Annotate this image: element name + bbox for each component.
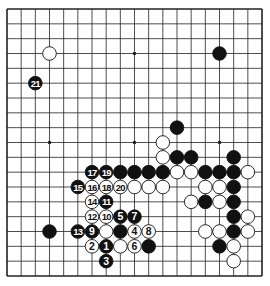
white-stone-icon — [156, 180, 170, 194]
star-point-icon — [133, 52, 137, 56]
black-stone-icon — [227, 210, 241, 224]
move-4: 4 — [128, 225, 142, 239]
black-stone-icon — [142, 240, 156, 254]
black-stone-icon — [227, 225, 241, 239]
move-14: 14 — [85, 195, 99, 209]
black-stone-icon — [170, 151, 184, 165]
move-number-label: 10 — [102, 211, 111, 222]
star-point-icon — [133, 141, 137, 145]
white-stone-icon — [213, 180, 227, 194]
white-stone-icon — [156, 151, 170, 165]
white-stone-icon — [114, 240, 128, 254]
move-9: 9 — [85, 225, 99, 239]
white-stone — [128, 180, 142, 194]
white-stone — [213, 225, 227, 239]
move-number-label: 1 — [103, 240, 109, 252]
move-11: 11 — [99, 195, 113, 209]
white-stone-icon — [170, 165, 184, 179]
black-stone-icon — [114, 225, 128, 239]
move-number-label: 6 — [132, 240, 138, 252]
black-stone-icon — [199, 165, 213, 179]
white-stone-icon — [213, 195, 227, 209]
white-stone-icon — [213, 225, 227, 239]
white-stone — [241, 165, 255, 179]
move-number-label: 9 — [89, 225, 95, 237]
move-6: 6 — [128, 240, 142, 254]
white-stone — [213, 195, 227, 209]
black-stone-icon — [142, 165, 156, 179]
black-stone — [156, 165, 170, 179]
move-20: 20 — [114, 180, 128, 194]
white-stone-icon — [43, 47, 57, 61]
black-stone — [114, 165, 128, 179]
white-stone-icon — [227, 254, 241, 268]
move-number-label: 15 — [73, 182, 83, 193]
white-stone — [156, 180, 170, 194]
black-stone — [213, 240, 227, 254]
black-stone-icon — [227, 151, 241, 165]
white-stone — [213, 180, 227, 194]
move-7: 7 — [128, 210, 142, 224]
black-stone — [227, 151, 241, 165]
white-stone — [241, 225, 255, 239]
black-stone — [227, 180, 241, 194]
white-stone-icon — [241, 165, 255, 179]
white-stone — [170, 165, 184, 179]
black-stone-icon — [227, 195, 241, 209]
white-stone-icon — [227, 240, 241, 254]
black-stone-icon — [213, 240, 227, 254]
white-stone — [184, 165, 198, 179]
white-stone-icon — [142, 180, 156, 194]
move-19: 19 — [99, 165, 113, 179]
white-stone — [156, 151, 170, 165]
white-stone — [241, 210, 255, 224]
move-3: 3 — [99, 254, 113, 268]
black-stone-icon — [128, 165, 142, 179]
white-stone-icon — [241, 210, 255, 224]
black-stone-icon — [43, 225, 57, 239]
move-1: 1 — [99, 240, 113, 254]
move-number-label: 18 — [102, 182, 111, 193]
white-stone — [142, 180, 156, 194]
move-18: 18 — [99, 180, 113, 194]
black-stone — [142, 240, 156, 254]
white-stone — [227, 254, 241, 268]
black-stone — [199, 165, 213, 179]
move-21: 21 — [29, 76, 43, 90]
white-stone — [156, 136, 170, 150]
black-stone — [227, 165, 241, 179]
move-12: 12 — [85, 210, 99, 224]
move-number-label: 19 — [102, 167, 111, 178]
move-17: 17 — [85, 165, 99, 179]
move-number-label: 4 — [132, 225, 138, 237]
go-board: 123456789101112131415161718192021 — [0, 0, 270, 286]
black-stone-icon — [170, 121, 184, 135]
move-13: 13 — [71, 225, 85, 239]
move-10: 10 — [99, 210, 113, 224]
black-stone — [114, 225, 128, 239]
white-stone — [99, 225, 113, 239]
white-stone-icon — [156, 136, 170, 150]
black-stone — [142, 165, 156, 179]
move-number-label: 2 — [89, 240, 95, 252]
move-number-label: 14 — [88, 196, 98, 207]
black-stone-icon — [184, 151, 198, 165]
move-5: 5 — [114, 210, 128, 224]
move-number-label: 5 — [117, 210, 123, 222]
black-stone-icon — [227, 180, 241, 194]
black-stone-icon — [213, 47, 227, 61]
move-8: 8 — [142, 225, 156, 239]
move-16: 16 — [85, 180, 99, 194]
white-stone — [199, 180, 213, 194]
star-point-icon — [48, 141, 52, 145]
white-stone-icon — [128, 180, 142, 194]
black-stone — [170, 121, 184, 135]
move-2: 2 — [85, 240, 99, 254]
star-point-icon — [218, 141, 222, 145]
move-number-label: 20 — [116, 182, 125, 193]
black-stone — [184, 151, 198, 165]
move-number-label: 8 — [146, 225, 152, 237]
white-stone-icon — [184, 195, 198, 209]
move-number-label: 13 — [73, 226, 82, 237]
black-stone — [213, 165, 227, 179]
